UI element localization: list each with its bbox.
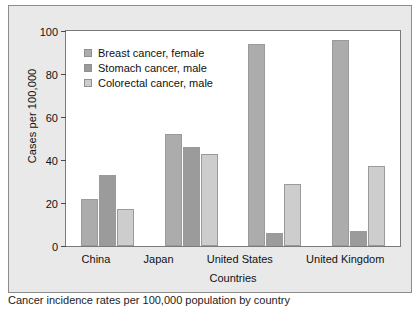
legend-swatch-icon [84,64,92,72]
y-axis-tick-label: 40 [32,155,58,167]
y-axis-tick: 80 [32,65,66,83]
bar [165,134,182,246]
x-axis-title: Countries [65,272,401,284]
bar [350,231,367,246]
x-axis-tick-label: Japan [144,253,174,265]
bar [284,184,301,246]
bar [117,209,134,246]
x-axis-tick-labels: ChinaJapanUnited StatesUnited Kingdom [65,253,401,265]
bar [332,40,349,246]
bar-group [332,31,385,246]
legend-swatch-icon [84,79,92,87]
bar [266,233,283,246]
x-axis-tick-label: China [82,253,111,265]
plot-area: 020406080100 Breast cancer, femaleStomac… [65,30,401,247]
y-axis-tick: 0 [32,237,66,255]
y-axis-tick: 40 [32,151,66,169]
y-axis-tick-label: 0 [32,241,58,253]
bar [368,166,385,246]
y-axis-tick: 60 [32,108,66,126]
y-axis-tick-label: 80 [32,69,58,81]
y-axis-tick-label: 60 [32,112,58,124]
legend-label: Colorectal cancer, male [98,77,213,89]
y-axis-tick: 100 [32,22,66,40]
legend-item: Stomach cancer, male [84,60,213,75]
y-axis-tick-label: 20 [32,198,58,210]
legend-item: Breast cancer, female [84,45,213,60]
bar [99,175,116,246]
bar-group [248,31,301,246]
legend-swatch-icon [84,49,92,57]
x-axis-tick-label: United Kingdom [306,253,384,265]
bar [201,154,218,246]
bar [183,147,200,246]
legend-label: Breast cancer, female [98,47,204,59]
figure-caption-text: Cancer incidence rates per 100,000 popul… [8,296,412,306]
bar [248,44,265,246]
legend-label: Stomach cancer, male [98,62,207,74]
legend-item: Colorectal cancer, male [84,75,213,90]
y-axis-tick: 20 [32,194,66,212]
chart-legend: Breast cancer, femaleStomach cancer, mal… [84,45,213,90]
bar [81,199,98,246]
chart-figure: Cases per 100,000 020406080100 Breast ca… [8,5,412,293]
figure-caption: Cancer incidence rates per 100,000 popul… [8,296,412,310]
x-axis-tick-label: United States [207,253,273,265]
y-axis-tick-label: 100 [32,26,58,38]
